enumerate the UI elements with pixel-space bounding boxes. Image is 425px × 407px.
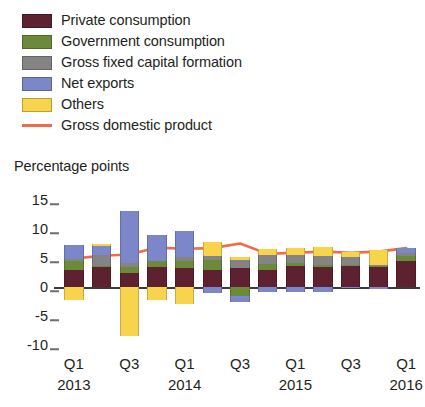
bar-segment xyxy=(175,268,194,287)
legend-item-label: Others xyxy=(61,97,104,112)
bar-segment xyxy=(203,242,222,255)
x-axis-quarter-label: Q1 xyxy=(285,355,305,372)
bar-segment xyxy=(175,287,194,304)
y-axis-tick-mark xyxy=(50,319,59,321)
x-axis-quarter-label: Q1 xyxy=(175,355,195,372)
bar-segment xyxy=(120,211,139,263)
legend-line-marker xyxy=(22,119,52,133)
legend-color-swatch xyxy=(22,98,52,112)
bar-segment xyxy=(369,250,388,265)
x-axis-quarter-label: Q3 xyxy=(119,355,139,372)
y-axis-tick-label: 5 xyxy=(14,250,48,266)
bar-segment xyxy=(92,267,111,287)
bar-segment xyxy=(313,287,332,292)
legend-item: Net exports xyxy=(22,73,412,94)
legend-item-label: Gross domestic product xyxy=(61,118,212,133)
legend-color-swatch xyxy=(22,35,52,49)
y-axis-tick-mark xyxy=(50,232,59,234)
bar-segment xyxy=(175,257,194,260)
y-axis-tick-mark xyxy=(50,290,59,292)
bar-segment xyxy=(203,270,222,287)
y-axis-tick-label: 15 xyxy=(14,192,48,208)
legend-item: Government consumption xyxy=(22,31,412,52)
bar-segment xyxy=(258,287,277,292)
bar-segment xyxy=(64,287,83,300)
y-axis-tick-label: 0 xyxy=(14,279,48,295)
legend-line-icon xyxy=(22,124,52,127)
bar-segment xyxy=(64,270,83,287)
x-axis-year-label: 2016 xyxy=(389,376,422,393)
bar-segment xyxy=(341,265,360,266)
bar-segment xyxy=(175,231,194,257)
bar-segment xyxy=(286,263,305,265)
bar-segment xyxy=(313,247,332,256)
bar-segment xyxy=(313,256,332,265)
legend-color-swatch xyxy=(22,14,52,28)
x-axis-year-label: 2013 xyxy=(57,376,90,393)
gdp-line-path xyxy=(74,244,406,259)
bar-segment xyxy=(230,268,249,287)
bar-segment xyxy=(92,266,111,268)
x-axis-quarter-label: Q1 xyxy=(64,355,84,372)
legend-item: Private consumption xyxy=(22,10,412,31)
y-axis-tick-label: 10 xyxy=(14,221,48,237)
y-axis-title: Percentage points xyxy=(14,158,129,174)
bar-segment xyxy=(64,245,83,258)
legend-item-label: Gross fixed capital formation xyxy=(61,55,242,70)
bar-segment xyxy=(92,246,111,254)
bar-segment xyxy=(313,265,332,267)
legend-item: Gross fixed capital formation xyxy=(22,52,412,73)
bar-segment xyxy=(286,266,305,287)
bar-segment xyxy=(341,287,360,288)
bar-segment xyxy=(258,255,277,264)
legend-item-label: Private consumption xyxy=(61,13,190,28)
bar-segment xyxy=(369,265,388,266)
y-axis-tick-mark xyxy=(50,261,59,263)
bar-segment xyxy=(120,287,139,336)
bar-segment xyxy=(369,266,388,267)
y-axis-tick-mark xyxy=(50,203,59,205)
bar-segment xyxy=(64,259,83,261)
legend-item: Gross domestic product xyxy=(22,115,412,136)
bar-segment xyxy=(286,287,305,292)
bar-segment xyxy=(396,261,415,287)
bar-segment xyxy=(203,260,222,269)
legend-color-swatch xyxy=(22,77,52,91)
bar-segment xyxy=(175,261,194,269)
bar-segment xyxy=(341,257,360,265)
bar-segment xyxy=(341,252,360,258)
bar-segment xyxy=(203,256,222,261)
x-axis-quarter-label: Q1 xyxy=(396,355,416,372)
bar-segment xyxy=(341,266,360,287)
bar-segment xyxy=(258,270,277,287)
bar-segment xyxy=(230,287,249,296)
legend-item-label: Government consumption xyxy=(61,34,225,49)
bar-segment xyxy=(230,260,249,268)
bar-segment xyxy=(92,255,111,266)
bar-segment xyxy=(369,267,388,287)
legend-item-label: Net exports xyxy=(61,76,134,91)
bar-segment xyxy=(147,235,166,262)
bar-segment xyxy=(313,267,332,287)
bar-segment xyxy=(286,255,305,264)
bar-segment xyxy=(230,296,249,302)
y-axis-tick-label: -10 xyxy=(14,337,48,353)
zero-baseline xyxy=(54,287,420,289)
bar-segment xyxy=(230,257,249,260)
bar-segment xyxy=(120,273,139,287)
legend-item: Others xyxy=(22,94,412,115)
bar-segment xyxy=(286,248,305,255)
x-axis-year-label: 2015 xyxy=(279,376,312,393)
bar-segment xyxy=(64,261,83,270)
x-axis-quarter-label: Q3 xyxy=(230,355,250,372)
bar-segment xyxy=(92,244,111,246)
y-axis-tick-label: -5 xyxy=(14,308,48,324)
bar-segment xyxy=(147,287,166,300)
bar-segment xyxy=(203,287,222,293)
bar-segment xyxy=(147,261,166,266)
bar-segment xyxy=(396,256,415,262)
bar-segment xyxy=(258,249,277,255)
x-axis-quarter-label: Q3 xyxy=(341,355,361,372)
bar-segment xyxy=(369,287,388,289)
chart-legend: Private consumptionGovernment consumptio… xyxy=(22,10,412,136)
